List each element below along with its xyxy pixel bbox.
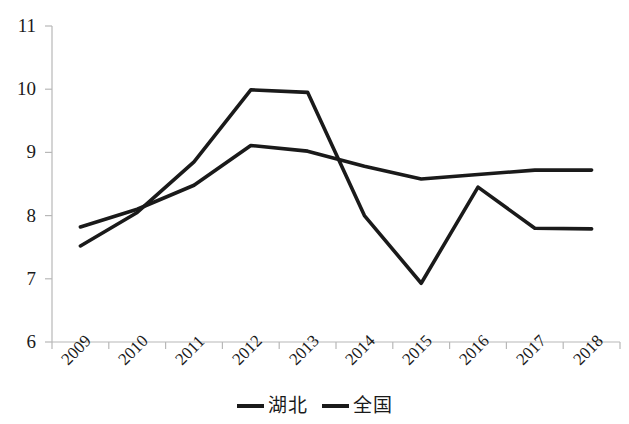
series-lines [80,90,591,283]
y-axis-tick-label: 10 [2,79,36,98]
y-axis-ticks [45,26,52,342]
legend-swatch-icon [237,404,264,408]
axis-lines [52,26,620,342]
y-axis-tick-label: 7 [2,269,36,288]
line-chart: 11109876 2009201020112012201320142015201… [0,0,629,424]
chart-legend: 湖北 全国 [0,396,629,416]
legend-item-hubei[interactable]: 湖北 [237,396,308,416]
legend-label: 全国 [353,396,393,416]
legend-item-national[interactable]: 全国 [322,396,393,416]
legend-label: 湖北 [268,396,308,416]
series-line-hubei [80,90,591,283]
y-axis-tick-label: 6 [2,332,36,351]
y-axis-tick-label: 8 [2,206,36,225]
plot-area [0,0,629,424]
legend-swatch-icon [322,404,349,408]
y-axis-tick-label: 9 [2,142,36,161]
y-axis-tick-label: 11 [2,16,36,35]
